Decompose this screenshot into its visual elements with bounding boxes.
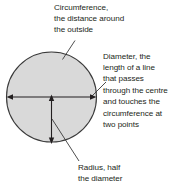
callout-diameter-line-1: Diameter, the — [103, 51, 168, 62]
callout-radius: Radius, half the diameter — [78, 162, 122, 185]
circle-parts-diagram: Circumference, the distance around the o… — [0, 0, 184, 190]
callout-diameter-line-7: two points — [103, 119, 168, 130]
callout-diameter-line-3: that passes — [103, 73, 168, 84]
callout-diameter-line-2: length of a line — [103, 62, 168, 73]
callout-radius-line-2: the diameter — [78, 173, 122, 184]
callout-radius-line-1: Radius, half — [78, 162, 122, 173]
callout-circumference-line-1: Circumference, — [54, 2, 124, 13]
callout-circumference-line-3: the outside — [54, 24, 124, 35]
callout-diameter-line-4: through the centre — [103, 85, 168, 96]
callout-circumference: Circumference, the distance around the o… — [54, 2, 124, 36]
callout-diameter: Diameter, the length of a line that pass… — [103, 51, 168, 131]
callout-circumference-line-2: the distance around — [54, 13, 124, 24]
callout-diameter-line-6: circumference at — [103, 108, 168, 119]
callout-diameter-line-5: and touches the — [103, 96, 168, 107]
